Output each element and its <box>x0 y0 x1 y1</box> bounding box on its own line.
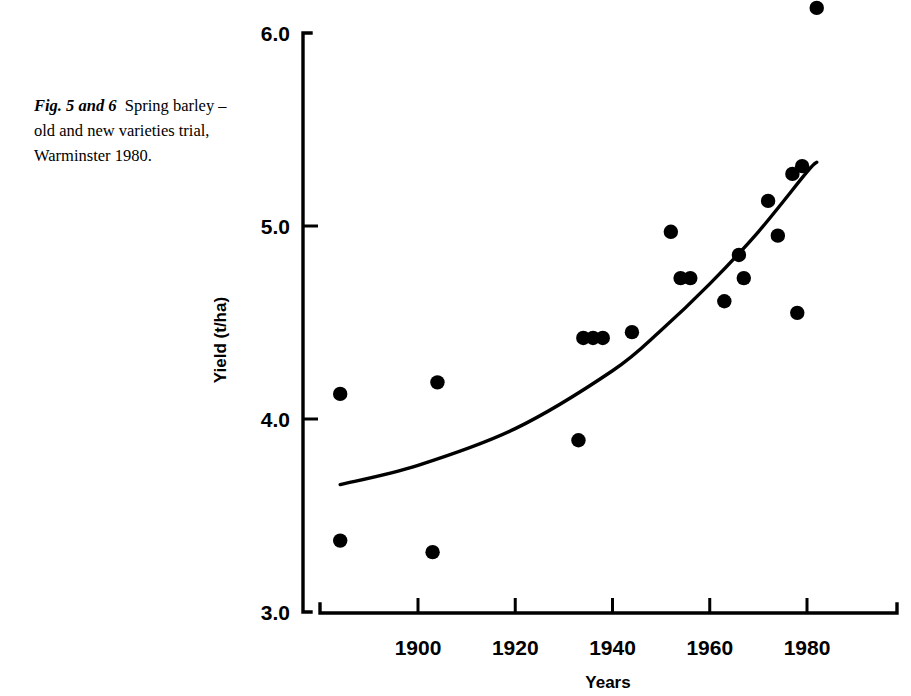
data-point <box>737 271 751 285</box>
chart-axes <box>303 33 897 613</box>
data-point <box>571 433 585 447</box>
data-points-group <box>333 1 824 560</box>
data-point <box>664 225 678 239</box>
data-point <box>790 306 804 320</box>
x-axis-ticks <box>418 598 807 613</box>
x-tick-label-1980: 1980 <box>784 636 831 659</box>
y-tick-label-4.0: 4.0 <box>261 408 290 431</box>
y-axis-line <box>303 33 311 612</box>
y-tick-label-6.0: 6.0 <box>261 22 290 45</box>
data-point <box>683 271 697 285</box>
data-point <box>333 387 347 401</box>
y-axis-tick-labels: 3.04.05.06.0 <box>261 22 290 624</box>
data-point <box>810 1 824 15</box>
x-axis-tick-labels: 19001920194019601980 <box>395 636 831 659</box>
data-point <box>425 545 439 559</box>
y-axis-title: Yield (t/ha) <box>211 297 230 383</box>
data-point <box>732 248 746 262</box>
x-axis-title: Years <box>585 673 630 692</box>
x-tick-label-1960: 1960 <box>686 636 733 659</box>
y-tick-label-3.0: 3.0 <box>261 601 290 624</box>
data-point <box>795 159 809 173</box>
data-point <box>333 533 347 547</box>
figure-page: Fig. 5 and 6 Spring barley – old and new… <box>0 0 911 696</box>
x-tick-label-1900: 1900 <box>395 636 442 659</box>
data-point <box>717 294 731 308</box>
x-axis-line <box>320 604 897 613</box>
x-tick-label-1940: 1940 <box>589 636 636 659</box>
data-point <box>625 325 639 339</box>
y-axis-ticks <box>303 226 318 419</box>
data-point <box>430 375 444 389</box>
data-point <box>771 228 785 242</box>
x-tick-label-1920: 1920 <box>492 636 539 659</box>
y-tick-label-5.0: 5.0 <box>261 215 290 238</box>
scatter-chart: 3.04.05.06.0 19001920194019601980 Yield … <box>0 0 911 696</box>
data-point <box>761 194 775 208</box>
data-point <box>596 331 610 345</box>
